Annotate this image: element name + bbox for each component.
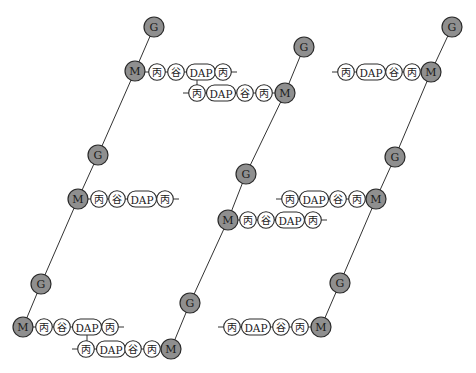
nag-node: G: [31, 274, 51, 294]
svg-text:DAP: DAP: [130, 194, 153, 206]
nag-node: G: [180, 293, 200, 313]
svg-text:G: G: [336, 277, 345, 290]
svg-text:DAP: DAP: [359, 67, 382, 79]
diagram-svg: GMGMGMGMGMGMGMGMGM丙谷DAP丙丙DAP谷丙丙DAP谷丙丙谷DA…: [0, 0, 476, 373]
peptide-right-bottom: 丙DAP谷丙: [224, 319, 309, 336]
peptide-left-bottom: 丙谷DAP丙: [36, 319, 119, 336]
svg-text:丙: 丙: [39, 322, 49, 333]
peptide-right-top: 丙DAP谷丙: [338, 64, 421, 81]
svg-text:M: M: [165, 343, 176, 356]
peptide-left-mid: 丙谷DAP丙: [91, 191, 174, 208]
nam-node: M: [161, 339, 181, 359]
nam-node: M: [218, 210, 238, 230]
svg-text:M: M: [72, 193, 83, 206]
nam-node: M: [366, 189, 386, 209]
svg-text:DAP: DAP: [189, 67, 212, 79]
svg-text:DAP: DAP: [209, 88, 232, 100]
peptide-right-mid: 丙DAP谷丙: [282, 191, 366, 208]
svg-text:DAP: DAP: [99, 344, 122, 356]
peptide-left-top: 丙谷DAP丙: [149, 64, 232, 81]
svg-text:丙: 丙: [160, 194, 170, 205]
nam-node: M: [275, 83, 295, 103]
svg-text:M: M: [129, 65, 140, 78]
svg-text:丙: 丙: [152, 67, 162, 78]
nam-node: M: [311, 317, 331, 337]
nam-node: M: [13, 317, 33, 337]
nam-node: M: [421, 62, 441, 82]
nag-node: G: [144, 17, 164, 37]
svg-text:谷: 谷: [333, 194, 343, 205]
svg-text:G: G: [150, 21, 159, 34]
svg-text:谷: 谷: [389, 67, 399, 78]
svg-text:谷: 谷: [128, 344, 138, 355]
svg-text:丙: 丙: [308, 215, 318, 226]
svg-text:丙: 丙: [192, 88, 202, 99]
svg-text:DAP: DAP: [244, 322, 267, 334]
nag-node: G: [294, 37, 314, 57]
svg-text:M: M: [315, 321, 326, 334]
svg-text:丙: 丙: [105, 322, 115, 333]
svg-text:G: G: [391, 151, 400, 164]
svg-text:G: G: [37, 278, 46, 291]
peptide-middle-top: 丙DAP谷丙: [189, 85, 273, 102]
svg-text:G: G: [300, 41, 309, 54]
svg-text:丙: 丙: [407, 67, 417, 78]
peptide-middle-bottom: 丙DAP谷丙: [78, 341, 161, 358]
svg-text:DAP: DAP: [278, 215, 301, 227]
svg-text:M: M: [279, 87, 290, 100]
nag-node: G: [236, 164, 256, 184]
svg-text:G: G: [242, 168, 251, 181]
peptide-middle-mid: 丙谷DAP丙: [240, 212, 322, 229]
svg-text:G: G: [448, 21, 457, 34]
nag-node: G: [442, 17, 462, 37]
svg-text:M: M: [370, 193, 381, 206]
svg-text:M: M: [17, 321, 28, 334]
svg-text:丙: 丙: [352, 194, 362, 205]
nam-node: M: [125, 61, 145, 81]
svg-text:丙: 丙: [341, 67, 351, 78]
svg-text:丙: 丙: [227, 322, 237, 333]
svg-text:丙: 丙: [243, 215, 253, 226]
nodes-layer: GMGMGMGMGMGMGMGMGM丙谷DAP丙丙DAP谷丙丙DAP谷丙丙谷DA…: [13, 17, 462, 359]
nag-node: G: [330, 273, 350, 293]
svg-text:谷: 谷: [276, 322, 286, 333]
svg-text:丙: 丙: [295, 322, 305, 333]
svg-text:谷: 谷: [171, 67, 181, 78]
svg-text:M: M: [425, 66, 436, 79]
svg-text:谷: 谷: [57, 322, 67, 333]
svg-text:丙: 丙: [259, 88, 269, 99]
peptidoglycan-diagram: GMGMGMGMGMGMGMGMGM丙谷DAP丙丙DAP谷丙丙DAP谷丙丙谷DA…: [0, 0, 476, 373]
svg-text:丙: 丙: [285, 194, 295, 205]
svg-text:谷: 谷: [261, 215, 271, 226]
nag-node: G: [385, 147, 405, 167]
svg-text:M: M: [222, 214, 233, 227]
svg-text:丙: 丙: [81, 344, 91, 355]
svg-text:丙: 丙: [94, 194, 104, 205]
svg-text:丙: 丙: [218, 67, 228, 78]
nam-node: M: [68, 189, 88, 209]
svg-text:谷: 谷: [112, 194, 122, 205]
svg-text:丙: 丙: [147, 344, 157, 355]
nag-node: G: [88, 145, 108, 165]
svg-text:DAP: DAP: [75, 322, 98, 334]
svg-text:谷: 谷: [240, 88, 250, 99]
svg-text:G: G: [186, 297, 195, 310]
svg-text:DAP: DAP: [302, 194, 325, 206]
svg-text:G: G: [94, 149, 103, 162]
